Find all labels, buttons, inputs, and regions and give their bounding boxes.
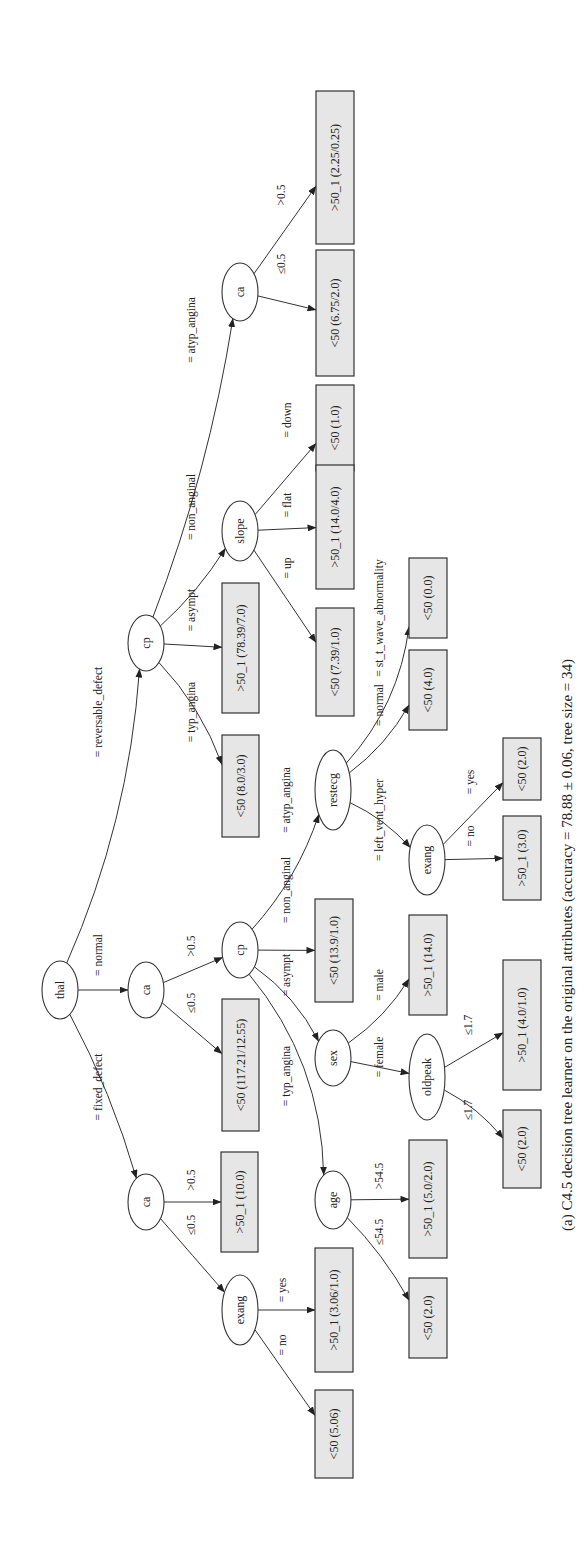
edge-label: = normal bbox=[373, 684, 385, 726]
edge-label: = non_anginal bbox=[280, 857, 293, 923]
edge-label: ≤0.5 bbox=[275, 253, 287, 274]
split-node: cp bbox=[128, 615, 164, 671]
split-label: ca bbox=[139, 984, 153, 995]
edge-label: ≤1.7 bbox=[462, 1014, 474, 1035]
leaf-node: <50 (4.0) bbox=[409, 650, 447, 730]
edge-label: = no bbox=[464, 825, 476, 846]
leaf-node: <50 (2.0) bbox=[409, 1278, 447, 1358]
edge-label: ≤1.7 bbox=[462, 1099, 474, 1120]
leaf-node: >50_1 (3.06/1.0) bbox=[315, 1248, 353, 1372]
leaf-label: >50_1 (78.39/7.0) bbox=[234, 604, 248, 691]
leaf-label: >50_1 (3.0) bbox=[515, 830, 529, 887]
leaf-label: >50_1 (5.0/2.0) bbox=[421, 1161, 435, 1236]
split-node: restecg bbox=[315, 750, 351, 830]
leaf-label: <50 (13.9/1.0) bbox=[327, 916, 341, 985]
split-label: age bbox=[326, 1192, 340, 1209]
edge-label: = yes bbox=[276, 1277, 289, 1302]
leaf-label: >50_1 (10.0) bbox=[233, 1171, 247, 1234]
split-node: slope bbox=[222, 501, 258, 561]
leaf-node: <50 (1.0) bbox=[316, 385, 354, 471]
tree-edge bbox=[164, 644, 222, 647]
leaf-node: <50 (6.75/2.0) bbox=[316, 250, 354, 376]
leaf-label: <50 (5.06) bbox=[327, 1409, 341, 1460]
leaf-node: >50_1 (5.0/2.0) bbox=[409, 1140, 447, 1258]
split-node: ca bbox=[222, 263, 258, 321]
tree-edge bbox=[445, 858, 503, 859]
leaf-label: >50_1 (2.25/0.25) bbox=[328, 124, 342, 211]
tree-edge bbox=[163, 957, 222, 982]
tree-edge bbox=[258, 528, 316, 531]
edge-label: ≤0.5 bbox=[185, 1214, 197, 1235]
tree-edge bbox=[351, 1199, 409, 1200]
edge-label: = yes bbox=[464, 769, 477, 794]
edge-label: = typ_angina bbox=[280, 1046, 293, 1106]
edge-label: = typ_angina bbox=[185, 682, 198, 742]
edge-label: = st_t_wave_abnormality bbox=[373, 559, 386, 677]
edge-label: = non_anginal bbox=[185, 474, 198, 540]
split-label: sex bbox=[326, 1050, 340, 1066]
leaf-node: >50_1 (4.0/1.0) bbox=[503, 960, 541, 1090]
leaf-label: >50_1 (14.0) bbox=[421, 934, 435, 997]
edge-label: >0.5 bbox=[185, 935, 197, 956]
leaf-node: >50_1 (10.0) bbox=[221, 1152, 258, 1252]
edge-label: >0.5 bbox=[275, 184, 287, 205]
split-label: ca bbox=[139, 1196, 153, 1207]
leaf-label: >50_1 (4.0/1.0) bbox=[515, 987, 529, 1062]
split-label: exang bbox=[233, 1296, 247, 1325]
split-node: exang bbox=[409, 825, 445, 895]
edge-label: = reversable_defect bbox=[92, 666, 104, 757]
split-label: ca bbox=[233, 286, 247, 297]
edge-label: = atyp_angina bbox=[185, 297, 198, 363]
edge-label: = up bbox=[281, 557, 294, 578]
edge-label: = female bbox=[373, 1037, 385, 1078]
leaf-label: <50 (6.75/2.0) bbox=[328, 278, 342, 347]
leaf-label: <50 (2.0) bbox=[421, 1296, 435, 1341]
split-label: restecg bbox=[326, 773, 340, 807]
split-node: ca bbox=[128, 1174, 164, 1230]
leaf-node: <50 (8.0/3.0) bbox=[222, 735, 259, 837]
leaf-node: >50_1 (2.25/0.25) bbox=[316, 91, 354, 244]
split-node: exang bbox=[222, 1275, 258, 1345]
split-node: thal bbox=[42, 961, 78, 1019]
edge-label: ≤54.5 bbox=[373, 1219, 385, 1246]
edge-label: >54.5 bbox=[373, 1162, 385, 1189]
split-node: cp bbox=[222, 922, 258, 978]
edge-label: = male bbox=[373, 969, 385, 1001]
split-node: sex bbox=[315, 1030, 351, 1086]
leaf-label: <50 (0.0) bbox=[421, 576, 435, 621]
edge-label: ≤0.5 bbox=[185, 992, 197, 1013]
leaf-label: <50 (2.0) bbox=[515, 1127, 529, 1172]
split-label: thal bbox=[53, 980, 67, 999]
edge-label: >0.5 bbox=[185, 1169, 197, 1190]
leaf-node: <50 (7.39/1.0) bbox=[316, 608, 354, 716]
edge-label: = no bbox=[276, 1334, 288, 1355]
edge-label: = normal bbox=[92, 934, 104, 976]
leaf-node: >50_1 (14.0) bbox=[409, 915, 447, 1015]
tree-edge bbox=[258, 296, 316, 310]
edge-label: = flat bbox=[281, 492, 293, 517]
edge-label: = down bbox=[281, 402, 293, 437]
leaf-node: <50 (5.06) bbox=[315, 1390, 353, 1478]
leaf-label: <50 (8.0/3.0) bbox=[234, 754, 248, 817]
split-node: ca bbox=[128, 962, 164, 1018]
split-label: exang bbox=[420, 846, 434, 875]
leaf-node: <50 (13.9/1.0) bbox=[315, 899, 353, 1002]
leaf-node: >50_1 (14.0/4.0) bbox=[316, 465, 354, 589]
decision-tree-diagram: = reversable_defect= normal= fixed_defec… bbox=[0, 0, 588, 1544]
split-node: oldpeak bbox=[409, 1034, 445, 1120]
leaf-label: <50 (2.0) bbox=[515, 747, 529, 792]
edge-label: = asympt bbox=[185, 588, 198, 631]
leaf-node: >50_1 (3.0) bbox=[503, 816, 541, 900]
split-label: cp bbox=[139, 637, 153, 648]
leaf-label: <50 (4.0) bbox=[421, 668, 435, 713]
leaf-label: >50_1 (3.06/1.0) bbox=[327, 1269, 341, 1350]
edge-label: = asympt bbox=[280, 953, 293, 996]
leaf-label: <50 (117.21/12.55) bbox=[234, 1019, 248, 1112]
leaf-label: <50 (1.0) bbox=[328, 406, 342, 451]
leaf-label: <50 (7.39/1.0) bbox=[328, 627, 342, 696]
leaf-node: <50 (117.21/12.55) bbox=[222, 999, 259, 1131]
leaf-node: <50 (2.0) bbox=[503, 1110, 541, 1188]
split-label: oldpeak bbox=[420, 1058, 434, 1096]
edge-label: = atyp_angina bbox=[280, 767, 293, 833]
edge-label: = fixed_defect bbox=[92, 1053, 104, 1121]
